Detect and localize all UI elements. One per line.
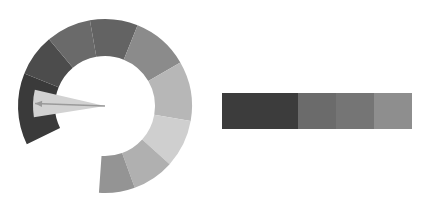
colorbar-segment — [374, 93, 412, 129]
colorbar-segment — [336, 93, 374, 129]
colorbar-segment — [298, 93, 336, 129]
colorbar-segment — [222, 93, 298, 129]
colorbar-legend — [222, 93, 412, 129]
figure-svg — [0, 0, 434, 213]
pointer-indicator — [33, 90, 105, 117]
figure-canvas — [0, 0, 434, 213]
